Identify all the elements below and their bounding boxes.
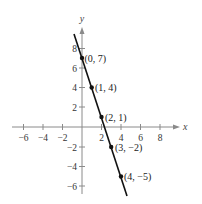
y-tick-label: 6 bbox=[72, 64, 77, 74]
data-point bbox=[90, 85, 94, 89]
y-axis-arrow-icon bbox=[80, 27, 85, 34]
y-tick-label: 8 bbox=[72, 44, 77, 54]
data-point bbox=[109, 145, 113, 149]
data-point bbox=[99, 115, 103, 119]
y-tick-label: 2 bbox=[72, 103, 77, 113]
y-tick-label: −2 bbox=[67, 143, 77, 153]
x-axis-label: x bbox=[182, 121, 188, 132]
x-tick-label: 2 bbox=[99, 133, 104, 143]
y-tick-label: 4 bbox=[72, 83, 77, 93]
line-chart: x −6 −4 −2 2 4 6 8 y 8 6 4 2 −2 −4 bbox=[0, 0, 202, 204]
y-tick-label: −6 bbox=[67, 182, 77, 192]
x-tick-label: −6 bbox=[18, 133, 28, 143]
point-label: (2, 1) bbox=[105, 112, 127, 124]
data-point bbox=[119, 174, 123, 178]
point-label: (3, −2) bbox=[115, 142, 142, 154]
point-label: (0, 7) bbox=[85, 53, 107, 65]
point-label: (1, 4) bbox=[95, 82, 117, 94]
x-axis-arrow-icon bbox=[173, 125, 180, 130]
point-label: (4, −5) bbox=[124, 171, 151, 183]
point-labels: (0, 7) (1, 4) (2, 1) (3, −2) (4, −5) bbox=[85, 53, 152, 184]
y-tick-label: −4 bbox=[67, 162, 77, 172]
x-axis: x −6 −4 −2 2 4 6 8 bbox=[12, 121, 188, 143]
x-tick-label: −2 bbox=[57, 133, 67, 143]
x-tick-label: 8 bbox=[158, 133, 163, 143]
y-axis-label: y bbox=[79, 13, 85, 24]
x-tick-label: −4 bbox=[38, 133, 48, 143]
